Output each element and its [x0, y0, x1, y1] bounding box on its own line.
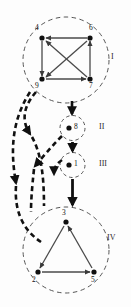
cluster-edge-II-IV-tail — [31, 169, 34, 212]
node-9 — [39, 76, 44, 81]
graph-svg — [0, 0, 131, 307]
node-1 — [66, 162, 71, 167]
node-label-9: 9 — [35, 82, 39, 90]
node-label-8: 8 — [74, 123, 78, 131]
node-8 — [66, 125, 71, 130]
node-label-1: 1 — [74, 160, 78, 168]
node-label-2: 2 — [32, 276, 36, 284]
node-2 — [35, 269, 40, 274]
edge-3-2 — [40, 226, 64, 268]
node-label-4: 4 — [35, 24, 39, 32]
cluster-edge-I-IV-outer — [13, 92, 30, 183]
node-6 — [87, 35, 92, 40]
cluster-label-IV: IV — [107, 234, 115, 242]
cluster-boundary-III — [60, 153, 85, 178]
cluster-label-II: II — [99, 123, 104, 131]
cluster-edge-I-IV-inner — [25, 92, 36, 134]
cluster-edge-I-IV-outer-tail — [16, 186, 41, 242]
cluster-edge-III-IV-dashed — [54, 160, 62, 174]
node-4 — [39, 35, 44, 40]
node-label-3: 3 — [62, 209, 66, 217]
node-3 — [63, 219, 68, 224]
edge-5-3 — [68, 226, 92, 268]
cluster-boundary-II — [60, 116, 85, 141]
node-label-7: 7 — [89, 82, 93, 90]
node-label-5: 5 — [91, 276, 95, 284]
node-5 — [91, 269, 96, 274]
figure-canvas: 4 6 9 7 8 1 3 2 5 I II III IV — [0, 0, 131, 307]
node-label-6: 6 — [89, 24, 93, 32]
cluster-label-III: III — [99, 160, 107, 168]
cluster-label-I: I — [111, 53, 114, 61]
